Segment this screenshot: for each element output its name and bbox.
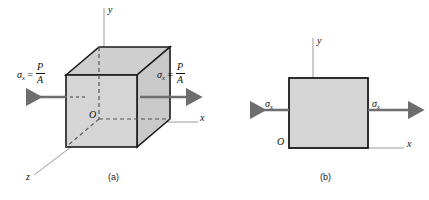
panel-a-left-stress-label: σx = P A	[17, 63, 45, 86]
panel-a-right-stress-label: σx = P A	[157, 63, 185, 86]
panel-a-caption: (a)	[108, 172, 119, 182]
panel-a-x-axis-label: x	[200, 113, 204, 123]
panel-a-left-equals-sign: =	[27, 70, 34, 80]
panel-a-origin-label: O	[89, 110, 96, 120]
panel-a-z-axis-label: z	[26, 172, 30, 182]
panel-a-left-numerator: P	[36, 62, 44, 72]
panel-a-left-fraction: P A	[36, 62, 45, 85]
cube-front-face	[66, 75, 137, 147]
figure-canvas	[0, 0, 429, 200]
panel-a-right-sigma-symbol: σx	[157, 70, 165, 80]
panel-a-y-axis-label: y	[108, 5, 112, 15]
square-element	[289, 78, 368, 148]
panel-b-left-sigma-symbol: σx	[265, 98, 273, 109]
panel-b-y-axis-label: y	[317, 36, 321, 46]
panel-b-x-axis-label: x	[407, 139, 411, 149]
panel-a-right-fraction: P A	[176, 62, 185, 85]
panel-a-right-numerator: P	[176, 62, 184, 72]
panel-b-square-face	[289, 78, 368, 148]
panel-a-right-equals-sign: =	[167, 70, 174, 80]
panel-a-left-denominator: A	[36, 75, 44, 85]
panel-b-left-stress-label: σx	[265, 94, 273, 110]
panel-b-right-stress-label: σx	[372, 94, 380, 110]
panel-b-origin-label: O	[277, 137, 284, 147]
panel-b-right-sigma-symbol: σx	[372, 98, 380, 109]
panel-b-caption: (b)	[320, 172, 331, 182]
panel-a-left-sigma-symbol: σx	[17, 70, 25, 80]
panel-a-right-denominator: A	[176, 75, 184, 85]
stress-element-figure: y x z O σx = P A σx = P A (a) y x O σx	[0, 0, 429, 200]
